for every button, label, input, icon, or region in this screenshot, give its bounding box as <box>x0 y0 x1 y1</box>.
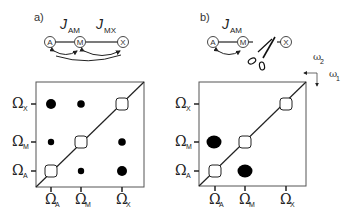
svg-text:X: X <box>186 105 191 112</box>
svg-text:X: X <box>23 105 28 112</box>
svg-text:A: A <box>186 172 191 179</box>
svg-text:A: A <box>219 201 224 208</box>
diag-peak-m <box>75 136 87 148</box>
panel-b-label: b) <box>200 11 210 23</box>
diag-peak-a-b <box>209 165 221 177</box>
cross-peak-mx <box>77 100 85 108</box>
ylabel-x: Ω <box>12 95 24 111</box>
svg-text:X: X <box>290 201 295 208</box>
cross-peak-ma <box>78 168 84 174</box>
diag-peak-x-b <box>280 98 292 110</box>
ylabel-a: Ω <box>12 162 24 178</box>
cross-peak-ax <box>46 99 56 109</box>
diag-peak-x <box>116 98 128 110</box>
svg-text:A: A <box>23 172 28 179</box>
svg-text:A: A <box>55 201 60 208</box>
figure: a) J AM J MX A M X Ω X Ω M <box>0 0 351 214</box>
diag-peak-m-b <box>239 136 251 148</box>
svg-text:M: M <box>249 201 255 208</box>
node-a-label: A <box>47 38 53 47</box>
svg-text:X: X <box>283 38 289 47</box>
svg-text:M: M <box>23 143 29 150</box>
panel-a: a) J AM J MX A M X Ω X Ω M <box>12 11 144 208</box>
panel-b: b) J AM A M X ω 2 ω 1 <box>175 11 340 208</box>
node-x-label: X <box>120 38 126 47</box>
transfer-arrow-am-b <box>218 51 240 55</box>
node-m-label: M <box>77 38 84 47</box>
cross-peak-ma-b <box>238 165 253 178</box>
svg-text:2: 2 <box>320 58 324 65</box>
svg-text:Ω: Ω <box>175 95 187 111</box>
cross-peak-xm <box>118 138 126 146</box>
svg-text:M: M <box>240 38 247 47</box>
ylabel-m: Ω <box>12 133 24 149</box>
svg-text:Ω: Ω <box>175 162 187 178</box>
diag-peak-a <box>45 165 57 177</box>
svg-text:X: X <box>126 201 131 208</box>
coupling-jam-symbol-b: J <box>221 16 230 32</box>
panel-a-label: a) <box>34 11 44 23</box>
transfer-arrow-mx <box>84 51 120 56</box>
svg-text:1: 1 <box>336 75 340 82</box>
coupling-jam-sub-b: AM <box>230 26 242 35</box>
coupling-jmx-sub: MX <box>104 26 117 35</box>
svg-text:M: M <box>186 143 192 150</box>
svg-text:Ω: Ω <box>175 133 187 149</box>
cross-peak-am <box>48 139 54 145</box>
cross-peak-am-b <box>207 136 222 149</box>
coupling-jam-symbol: J <box>59 16 68 32</box>
coupling-jmx-symbol: J <box>95 16 104 32</box>
svg-text:M: M <box>85 201 91 208</box>
svg-text:A: A <box>210 38 216 47</box>
transfer-arrow-am <box>54 51 77 55</box>
transfer-arrow-ax <box>56 55 121 61</box>
cross-peak-xa <box>117 166 127 176</box>
coupling-jam-sub: AM <box>68 26 80 35</box>
